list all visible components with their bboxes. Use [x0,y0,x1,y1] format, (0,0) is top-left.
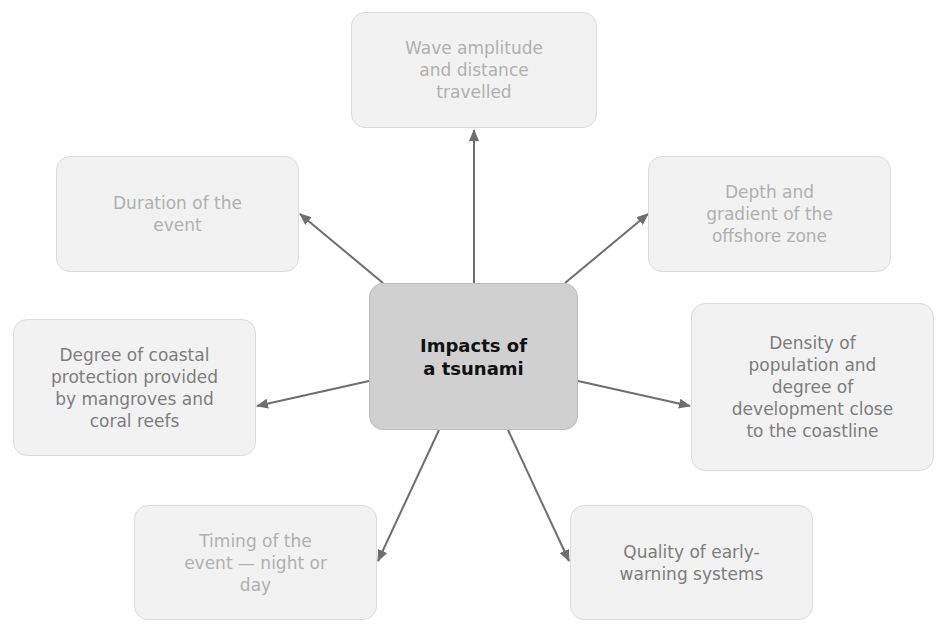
arrow-to-coastal [257,381,369,406]
node-coastal-protection: Degree of coastal protection provided by… [13,319,256,456]
node-label: Wave amplitude and distance travelled [405,37,543,103]
node-timing: Timing of the event — night or day [134,505,377,620]
node-depth-gradient: Depth and gradient of the offshore zone [648,156,891,272]
node-label: Duration of the event [113,192,242,236]
node-duration: Duration of the event [56,156,299,272]
arrow-to-timing [378,430,439,561]
arrow-to-warning [508,430,569,561]
arrow-to-depth [565,214,648,283]
center-node-label: Impacts of a tsunami [420,334,527,380]
node-label: Depth and gradient of the offshore zone [706,181,833,247]
node-early-warning: Quality of early- warning systems [570,505,813,620]
node-label: Timing of the event — night or day [184,530,327,596]
center-node-impacts: Impacts of a tsunami [369,283,578,430]
node-label: Degree of coastal protection provided by… [51,344,218,432]
node-label: Quality of early- warning systems [620,541,764,585]
node-label: Density of population and degree of deve… [732,332,893,442]
arrow-to-density [578,381,690,406]
node-wave-amplitude: Wave amplitude and distance travelled [351,12,597,128]
arrow-to-duration [300,214,383,283]
node-population-density: Density of population and degree of deve… [691,303,934,471]
